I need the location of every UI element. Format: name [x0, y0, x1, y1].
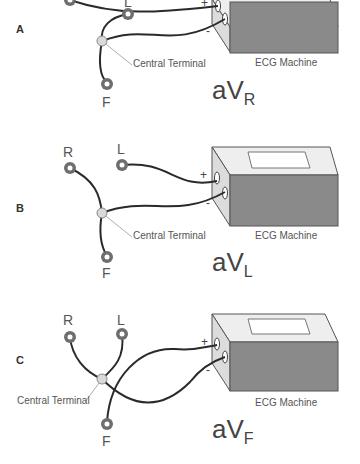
negative-sign: - [206, 363, 210, 377]
wire-f-positive [107, 345, 217, 422]
electrode-label-f: F [102, 433, 111, 449]
panel-c-diagram [0, 157, 360, 464]
electrode-label-l: L [117, 141, 125, 157]
ecg-machine [212, 314, 338, 391]
panel-c: C R L F Central Terminal ECG Machine + -… [0, 157, 360, 464]
panel-letter: C [16, 354, 24, 366]
electrode-label-l: L [117, 312, 125, 328]
central-terminal [97, 374, 107, 384]
electrode-label-r: R [63, 312, 73, 328]
central-terminal-label: Central Terminal [17, 395, 90, 406]
machine-label: ECG Machine [255, 397, 317, 408]
lead-label: aVF [212, 414, 254, 448]
positive-sign: + [201, 335, 208, 349]
